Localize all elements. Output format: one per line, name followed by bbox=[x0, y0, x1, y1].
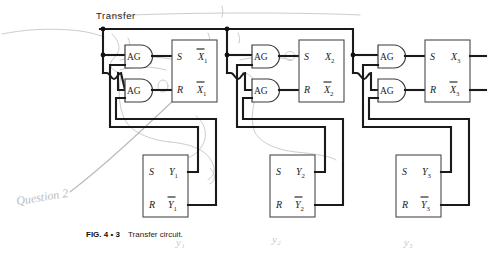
figure-caption: FIG. 4 • 3 Transfer circuit. bbox=[86, 230, 183, 239]
flipflop-x1[interactable]: S R X1 X1 bbox=[172, 40, 217, 102]
and-gate-3-reset[interactable]: AG bbox=[378, 79, 405, 102]
junction-dot-stage2-set bbox=[225, 53, 230, 58]
flipflop-y3[interactable]: S R Y3 Y3 bbox=[396, 155, 441, 217]
flipflop-y3-r-label: R bbox=[401, 199, 408, 210]
caption-prefix: FIG. 4 • 3 bbox=[86, 230, 120, 239]
and-gate-3-set[interactable]: AG bbox=[378, 45, 406, 68]
flipflop-y2[interactable]: S R Y2 Y2 bbox=[270, 155, 315, 217]
handwritten-question-note: Question 2 bbox=[15, 186, 69, 208]
flipflop-x1-r-label: R bbox=[176, 84, 183, 95]
flipflop-x3-r-label: R bbox=[429, 84, 436, 95]
flipflop-x1-s-label: S bbox=[177, 51, 182, 62]
and-gate-2-reset-label: AG bbox=[254, 86, 268, 96]
wire-transfer-to-gate3-reset bbox=[353, 73, 378, 90]
junction-dot-stage1-set bbox=[101, 53, 106, 58]
flipflop-x3-s-label: S bbox=[430, 51, 435, 62]
wire-transfer-to-gate1-reset bbox=[103, 73, 125, 90]
junction-dot-bus-stage2-top bbox=[225, 27, 230, 32]
and-gate-1-reset-label: AG bbox=[127, 86, 141, 96]
flipflop-x2-s-label: S bbox=[304, 51, 309, 62]
and-gate-1-reset[interactable]: AG bbox=[125, 79, 152, 102]
flipflop-y1-s-label: S bbox=[149, 166, 154, 177]
and-gate-2-set-label: AG bbox=[254, 52, 268, 62]
flipflop-y1[interactable]: S R Y1 Y1 bbox=[143, 155, 188, 217]
transfer-circuit-figure: AG AG S R X1 X1 bbox=[0, 0, 492, 264]
and-gate-1-set[interactable]: AG bbox=[125, 45, 153, 68]
transfer-label: Transfer bbox=[96, 10, 136, 21]
flipflop-y2-r-label: R bbox=[275, 199, 282, 210]
flipflop-x3[interactable]: S R X3 X3 bbox=[425, 40, 486, 102]
stage-3: AG AG S R X3 X3 bbox=[353, 40, 486, 217]
and-gate-2-set[interactable]: AG bbox=[252, 45, 280, 68]
flipflop-y3-s-label: S bbox=[402, 166, 407, 177]
and-gate-2-reset[interactable]: AG bbox=[252, 79, 279, 102]
circuit-diagram-svg: AG AG S R X1 X1 bbox=[0, 0, 492, 264]
caption-text: Transfer circuit. bbox=[128, 230, 183, 239]
flipflop-y1-r-label: R bbox=[148, 199, 155, 210]
flipflop-x2[interactable]: S R X2 X2 bbox=[299, 40, 344, 102]
and-gate-3-set-label: AG bbox=[380, 52, 394, 62]
and-gate-1-set-label: AG bbox=[127, 52, 141, 62]
flipflop-y2-s-label: S bbox=[276, 166, 281, 177]
wire-transfer-to-gate2-reset bbox=[227, 73, 252, 90]
junction-dot-bus-stage1-top bbox=[101, 27, 106, 32]
junction-dot-stage3-set bbox=[351, 53, 356, 58]
handwritten-y2-note: y₂ bbox=[271, 233, 281, 245]
and-gate-3-reset-label: AG bbox=[380, 86, 394, 96]
flipflop-x2-r-label: R bbox=[303, 84, 310, 95]
handwritten-y3-note: y₃ bbox=[403, 236, 413, 248]
handwriting-layer: Question 2 y₁ y₂ y₃ bbox=[15, 186, 413, 248]
